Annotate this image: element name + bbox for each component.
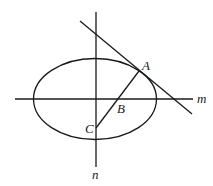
point-c-label: C (85, 121, 94, 136)
geometry-diagram: A B C m n (0, 0, 213, 186)
point-b-label: B (117, 101, 125, 116)
line-n-label: n (92, 167, 99, 182)
point-a-label: A (141, 58, 150, 73)
diagram-svg: A B C m n (0, 0, 213, 186)
tangent-line (80, 21, 192, 114)
line-m-label: m (197, 91, 206, 106)
